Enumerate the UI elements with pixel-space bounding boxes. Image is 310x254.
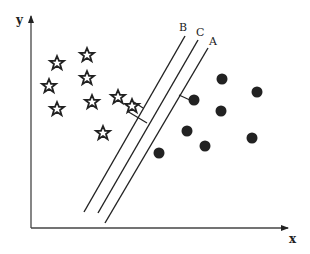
hyperplane-b xyxy=(84,36,185,212)
star-icon xyxy=(125,99,139,112)
star-icon xyxy=(50,56,64,69)
filled-circle-icon xyxy=(247,133,258,144)
filled-circle-icon xyxy=(217,74,228,85)
star-icon xyxy=(50,102,64,115)
star-icon xyxy=(80,48,94,61)
filled-circle-icon xyxy=(252,87,263,98)
filled-circle-icon xyxy=(154,148,165,159)
star-icon xyxy=(42,79,56,92)
filled-circle-icon xyxy=(216,106,227,117)
svm-hyperplane-diagram: y x B C A xyxy=(0,0,310,254)
filled-circle-icon xyxy=(200,141,211,152)
hyperplane-a xyxy=(105,48,208,223)
hyperplanes: B C A xyxy=(84,21,218,223)
circle-class-points xyxy=(154,74,263,159)
hyperplane-b-label: B xyxy=(179,21,187,34)
filled-circle-icon xyxy=(189,95,200,106)
axes: y x xyxy=(15,13,297,246)
filled-circle-icon xyxy=(182,126,193,137)
star-icon xyxy=(80,71,94,84)
star-icon xyxy=(96,126,110,139)
x-axis-label: x xyxy=(289,232,297,246)
hyperplane-c-label: C xyxy=(196,26,204,39)
star-icon xyxy=(111,90,125,103)
hyperplane-a-label: A xyxy=(208,35,218,48)
hyperplane-c xyxy=(98,40,198,213)
diagram-svg: y x B C A xyxy=(0,0,310,254)
star-icon xyxy=(85,95,99,108)
y-axis-label: y xyxy=(15,13,24,27)
star-class-points xyxy=(42,48,139,139)
